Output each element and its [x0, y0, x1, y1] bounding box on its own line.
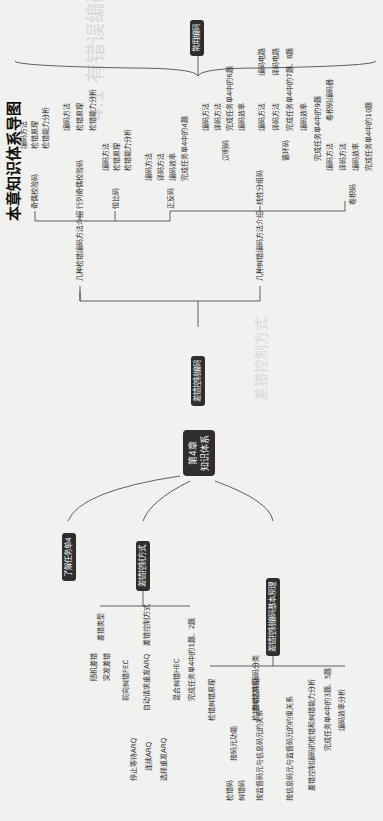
leaf: 译码方法	[157, 153, 166, 181]
center-line2: 知识体系	[199, 435, 211, 471]
branch-basic-principles[interactable]: 差错控制编码基本原理	[266, 578, 280, 656]
leaf: 检错能力分析	[124, 129, 133, 171]
node-row-col-parity[interactable]: 行列奇偶校验码	[76, 160, 85, 209]
node-detect-methods[interactable]: 几种检错编码方法介绍	[76, 211, 85, 281]
node-cyclic[interactable]: 循环码	[282, 140, 291, 161]
leaf: 编码方法	[326, 143, 335, 171]
node-by-relation[interactable]: 按监督码元与信息码元的关系	[256, 710, 265, 801]
leaf: 编码方法	[145, 153, 154, 181]
node-inverse-code[interactable]: 正反码	[167, 188, 176, 209]
leaf: 停止等待ARQ	[130, 738, 139, 781]
leaf: 完成任务单4中的7题、8题	[286, 48, 295, 131]
node-error-types[interactable]: 差错类型	[97, 613, 106, 641]
leaf: 译码电路	[272, 48, 281, 76]
leaf: 卷积码编码器	[326, 79, 335, 121]
node-linear-block[interactable]: 线性分组码	[256, 170, 265, 205]
leaf: 编码效率	[300, 103, 309, 131]
branch-control-modes[interactable]: 差错控制方式	[136, 541, 150, 591]
leaf: 前向纠错FEC	[122, 660, 131, 701]
leaf: 编码效率分析	[338, 689, 347, 731]
leaf: 随机差错	[90, 653, 99, 681]
node-control-modes[interactable]: 差错控制方式	[143, 604, 152, 646]
center-node[interactable]: 第4章 知识体系	[183, 430, 215, 476]
leaf: 编码效率	[238, 103, 247, 131]
leaf: 差错控制编码的检错和纠错能力分析	[308, 679, 317, 791]
leaf: 编码方法	[20, 121, 29, 149]
leaf: 编码方法	[102, 143, 111, 171]
leaf: 检错能力分析	[42, 107, 51, 149]
leaf: 完成任务单4中的3题、5题	[324, 668, 333, 751]
leaf: 检错能力分析	[89, 89, 98, 131]
leaf: 编码方法	[202, 103, 211, 131]
node-arq[interactable]: 自动请求重发ARQ	[143, 654, 152, 711]
node-parity[interactable]: 奇偶校验码	[31, 174, 40, 209]
leaf: 编码方法	[63, 103, 72, 131]
branch-task-sheet[interactable]: 了解任务单4	[62, 533, 76, 581]
leaf: 编码效率	[169, 153, 178, 181]
leaf: 译码方法	[214, 103, 223, 131]
leaf: 编码效率	[352, 143, 361, 171]
root-node[interactable]: 常用编码	[190, 20, 204, 56]
leaf: 完成任务单4中的1题、2题	[188, 618, 197, 701]
leaf: 检错原理	[31, 121, 40, 149]
leaf: 完成任务单4中的9题	[314, 96, 323, 161]
leaf: 完成任务单4中的6题	[226, 66, 235, 131]
leaf: 连续ARQ	[145, 742, 154, 771]
node-convolutional[interactable]: 卷积码	[349, 184, 358, 205]
leaf: 编码方法	[258, 103, 267, 131]
node-hamming[interactable]: 汉明码	[222, 140, 231, 161]
leaf: 突发差错	[103, 653, 112, 681]
leaf: 检错原理	[113, 143, 122, 171]
leaf: 编码电路	[258, 48, 267, 76]
leaf: 检错码	[226, 780, 235, 801]
leaf: 译码方法	[272, 103, 281, 131]
node-by-function[interactable]: 按码元功能	[230, 726, 239, 761]
leaf: 混合纠错HEC	[173, 658, 182, 701]
node-code-class[interactable]: 差错控制编码分类	[252, 655, 261, 711]
branch-error-control-coding[interactable]: 差错控制编码	[191, 356, 205, 406]
node-by-constraint[interactable]: 按信息码元与监督码元的约束关系	[286, 696, 295, 801]
leaf: 译码方法	[339, 143, 348, 171]
center-line1: 第4章	[187, 435, 199, 471]
leaf: 纠错码	[238, 780, 247, 801]
leaf: 完成任务单4中的10题	[365, 102, 374, 171]
rotated-page: 4.1 有错误编码 差错控制方式 本章知识体系导图	[0, 0, 383, 821]
node-correct-methods[interactable]: 几种纠错编码方法介绍	[256, 211, 265, 281]
leaf: 完成任务单4中的4题	[181, 116, 190, 181]
leaf: 选择重发ARQ	[160, 738, 169, 781]
leaf: 检错纠错原理	[208, 679, 217, 721]
leaf: 检错原理	[76, 103, 85, 131]
node-constant-ratio[interactable]: 恒比码	[112, 188, 121, 209]
